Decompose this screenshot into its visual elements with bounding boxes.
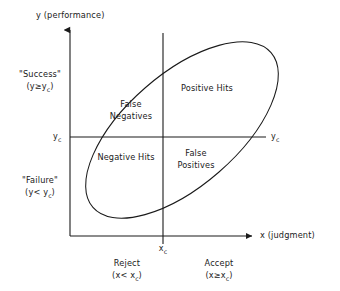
quadrant-false-negatives-line2: Negatives bbox=[110, 110, 152, 122]
quadrant-false-positives-line1: False bbox=[177, 147, 214, 159]
failure-condition-post: ) bbox=[52, 187, 55, 197]
x-cutoff-tick-subscript: c bbox=[164, 248, 167, 255]
reject-condition: (x< xc) bbox=[112, 269, 142, 285]
correlation-ellipse bbox=[56, 10, 308, 249]
y-cutoff-tick-left-subscript: c bbox=[58, 136, 61, 143]
quadrant-positive-hits: Positive Hits bbox=[181, 83, 233, 94]
quadrant-false-negatives: False Negatives bbox=[110, 98, 152, 122]
accept-condition: (x≥xc) bbox=[205, 269, 234, 285]
y-cutoff-tick-right: yc bbox=[271, 131, 279, 145]
failure-title: "Failure" bbox=[22, 174, 58, 186]
success-region-label: "Success" (y≥yc) bbox=[19, 68, 61, 96]
accept-condition-pre: (x bbox=[205, 270, 213, 280]
success-condition-operator: ≥ bbox=[35, 81, 42, 91]
reject-condition-variable: x bbox=[127, 270, 135, 280]
accept-title: Accept bbox=[205, 257, 234, 269]
success-condition-pre: (y bbox=[26, 81, 34, 91]
y-cutoff-tick-left: yc bbox=[53, 131, 61, 145]
accept-condition-post: ) bbox=[229, 270, 232, 280]
reject-region-label: Reject (x< xc) bbox=[112, 257, 142, 285]
quadrant-false-positives: False Positives bbox=[177, 147, 214, 171]
x-cutoff-tick: xc bbox=[159, 243, 167, 257]
success-condition: (y≥yc) bbox=[19, 80, 61, 96]
failure-condition-variable: y bbox=[40, 187, 48, 197]
ellipse-quadrant-diagram: y (performance) x (judgment) yc yc xc "S… bbox=[0, 0, 340, 291]
reject-condition-post: ) bbox=[139, 270, 142, 280]
y-cutoff-tick-right-subscript: c bbox=[276, 136, 279, 143]
success-condition-post: ) bbox=[50, 81, 53, 91]
quadrant-false-negatives-line1: False bbox=[110, 98, 152, 110]
x-axis-label: x (judgment) bbox=[260, 230, 315, 241]
diagram-canvas bbox=[0, 0, 340, 291]
accept-region-label: Accept (x≥xc) bbox=[205, 257, 234, 285]
success-title: "Success" bbox=[19, 68, 61, 80]
y-axis-label: y (performance) bbox=[36, 10, 105, 21]
failure-condition: (y< yc) bbox=[22, 186, 58, 202]
reject-title: Reject bbox=[112, 257, 142, 269]
failure-region-label: "Failure" (y< yc) bbox=[22, 174, 58, 202]
quadrant-negative-hits: Negative Hits bbox=[97, 152, 154, 163]
quadrant-false-positives-line2: Positives bbox=[177, 159, 214, 171]
